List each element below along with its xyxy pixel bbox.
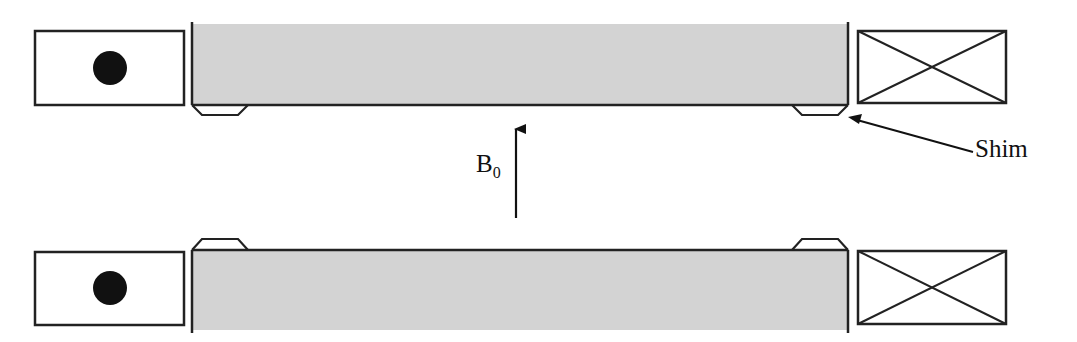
top-left-current-dot-icon — [93, 51, 127, 85]
shim-label: Shim — [975, 135, 1028, 163]
bottom-pole-piece — [193, 250, 847, 330]
b0-field-label: B0 — [476, 150, 501, 182]
top-right-shim — [792, 105, 848, 115]
bottom-right-coil-cross-icon — [858, 251, 1006, 324]
top-assembly — [35, 22, 1006, 115]
shim-pointer-arrowhead-icon — [848, 114, 862, 124]
bottom-right-shim — [792, 239, 848, 250]
magnet-diagram — [0, 0, 1077, 342]
bottom-left-current-dot-icon — [93, 271, 127, 305]
top-left-shim — [192, 105, 248, 115]
top-pole-piece — [193, 24, 847, 105]
b0-label-subscript: 0 — [493, 164, 501, 181]
bottom-assembly — [35, 239, 1006, 333]
shim-pointer-arrow-icon — [857, 120, 973, 152]
bottom-left-shim — [192, 239, 248, 250]
b0-label-main: B — [476, 150, 493, 177]
top-right-coil-cross-icon — [858, 31, 1006, 103]
